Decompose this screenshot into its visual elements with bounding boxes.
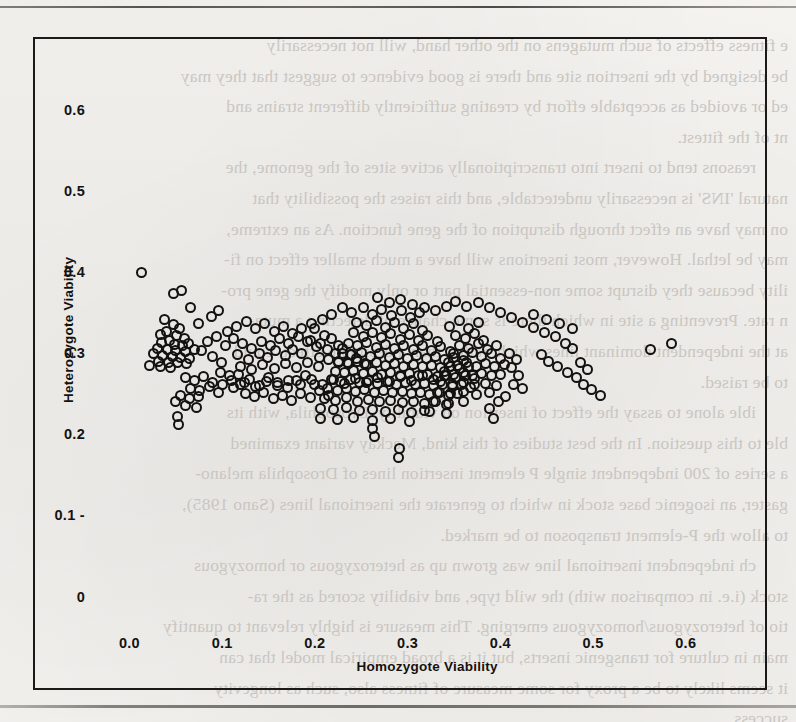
y-axis-tick-label: 0.2 <box>35 426 85 442</box>
data-point <box>528 322 539 333</box>
data-point <box>317 379 328 390</box>
data-point <box>645 344 656 355</box>
x-axis-title: Homozygote Viability <box>357 659 498 674</box>
data-point <box>406 375 417 386</box>
data-point <box>493 396 504 407</box>
data-point <box>305 392 316 403</box>
data-point <box>193 318 204 329</box>
data-point <box>471 389 482 400</box>
data-point <box>539 327 550 338</box>
data-point <box>595 390 606 401</box>
data-point <box>567 323 578 334</box>
data-point <box>666 338 677 349</box>
data-point <box>461 301 472 312</box>
data-point <box>517 383 528 394</box>
y-axis-tick-label: 0.3 <box>35 345 85 361</box>
data-point <box>384 297 395 308</box>
figure-frame: 00.1 -0.20.30.40.50.60.00.10.20.30.40.50… <box>33 37 767 690</box>
data-point <box>473 317 484 328</box>
data-point <box>528 309 539 320</box>
data-point <box>348 412 359 423</box>
data-point <box>369 431 380 442</box>
data-point <box>239 377 250 388</box>
x-axis-tick-label: 0.1 <box>212 635 233 651</box>
data-point <box>473 297 484 308</box>
y-axis-tick-label: 0.4 <box>35 264 85 280</box>
data-point <box>341 402 352 413</box>
data-point <box>241 316 252 327</box>
data-point <box>191 402 202 413</box>
data-point <box>404 416 415 427</box>
data-point <box>484 302 495 313</box>
y-axis-tick-label: 0 <box>35 589 85 605</box>
data-point <box>181 358 192 369</box>
data-point <box>488 413 499 424</box>
data-point <box>185 302 196 313</box>
data-point <box>372 292 383 303</box>
y-axis-title: Heterozygote Viability <box>61 256 76 402</box>
data-point <box>441 408 452 419</box>
data-point <box>250 323 261 334</box>
data-point <box>136 267 147 278</box>
data-point <box>506 312 517 323</box>
x-axis-tick-label: 0.4 <box>490 635 511 651</box>
data-point <box>385 413 396 424</box>
scan-edge-line-bottom <box>0 705 796 708</box>
data-point <box>495 307 506 318</box>
x-axis-tick-label: 0.5 <box>582 635 603 651</box>
data-point <box>280 358 291 369</box>
data-point <box>213 305 224 316</box>
data-point <box>328 374 339 385</box>
data-point <box>231 321 242 332</box>
x-axis-tick-label: 0.2 <box>304 635 325 651</box>
data-point <box>144 360 155 371</box>
scanned-page: e fitness effects of such mutagens on th… <box>0 0 796 722</box>
data-point <box>419 302 430 313</box>
y-axis-tick-label: 0.5 <box>35 183 85 199</box>
data-point <box>180 400 191 411</box>
data-point <box>332 414 343 425</box>
data-point <box>315 413 326 424</box>
data-point <box>430 305 441 316</box>
data-point <box>384 376 395 387</box>
data-point <box>424 406 435 417</box>
data-point <box>367 404 378 415</box>
data-point <box>339 378 350 389</box>
data-point <box>495 369 506 380</box>
data-point <box>393 452 404 463</box>
data-point <box>165 362 176 373</box>
data-point <box>257 359 268 370</box>
data-point <box>228 382 239 393</box>
data-point <box>250 381 261 392</box>
data-point <box>155 361 166 372</box>
data-point <box>302 357 313 368</box>
data-point <box>582 364 593 375</box>
data-point <box>246 364 257 375</box>
data-point <box>317 314 328 325</box>
data-point <box>408 396 419 407</box>
x-axis-tick-label: 0.3 <box>397 635 418 651</box>
data-point <box>407 299 418 310</box>
data-point <box>350 373 361 384</box>
data-point <box>313 361 324 372</box>
data-point <box>176 285 187 296</box>
data-point <box>295 379 306 390</box>
scan-edge-line-top <box>0 6 796 8</box>
data-point <box>484 387 495 398</box>
x-axis-tick-label: 0.6 <box>675 635 696 651</box>
data-point <box>567 343 578 354</box>
scatter-plot: 00.1 -0.20.30.40.50.60.00.10.20.30.40.50… <box>35 39 765 688</box>
data-point <box>217 379 228 390</box>
data-point <box>439 370 450 381</box>
data-point <box>541 314 552 325</box>
x-axis-tick-label: 0.0 <box>119 635 140 651</box>
data-point <box>450 296 461 307</box>
data-point <box>311 341 322 352</box>
data-point <box>517 317 528 328</box>
data-point <box>202 336 213 347</box>
data-point <box>261 376 272 387</box>
data-point <box>395 371 406 382</box>
data-point <box>395 294 406 305</box>
y-axis-tick-label: 0.6 <box>35 102 85 118</box>
y-axis-tick-label: 0.1 - <box>35 507 85 523</box>
